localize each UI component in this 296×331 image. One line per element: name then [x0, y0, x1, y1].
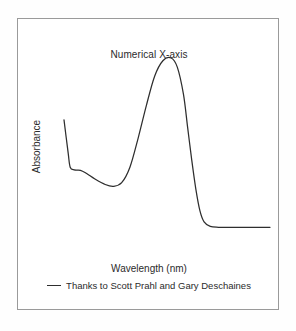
legend-line-dash-icon — [47, 285, 61, 287]
chart-legend: Thanks to Scott Prahl and Gary Deschaine… — [18, 280, 280, 291]
plot-frame: Numerical X-axis Absorbance Wavelength (… — [17, 18, 279, 310]
legend-item-label: Thanks to Scott Prahl and Gary Deschaine… — [66, 280, 251, 291]
figure-root: Numerical X-axis Absorbance Wavelength (… — [0, 0, 296, 331]
x-axis-label: Wavelength (nm) — [18, 263, 280, 274]
spectrum-curve — [64, 58, 270, 228]
